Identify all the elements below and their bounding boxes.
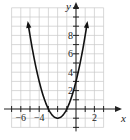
y-tick-label: 8 (68, 30, 73, 41)
y-tick-label: 6 (68, 48, 73, 59)
x-axis-label: x (120, 112, 126, 124)
x-tick-label: −6 (15, 112, 26, 123)
x-tick-label: 2 (92, 112, 97, 123)
parabola-graph: −6−422468 x y (0, 0, 130, 140)
x-tick-label: −4 (34, 112, 45, 123)
y-tick-label: 4 (68, 67, 73, 78)
y-axis-label: y (65, 0, 71, 12)
